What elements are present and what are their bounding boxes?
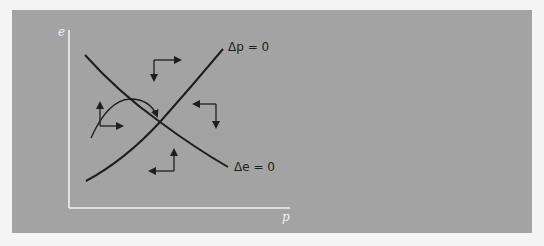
arrow-pair-left — [100, 103, 122, 126]
arrow-pair-bottom — [150, 150, 174, 171]
delta-p-zero-label: Δp = 0 — [228, 40, 269, 54]
axes — [69, 30, 290, 208]
arrow-pair-right — [194, 104, 216, 127]
trajectory-curve — [91, 99, 157, 138]
x-axis-label: p — [282, 210, 290, 224]
y-axis-label: e — [58, 25, 65, 39]
arrow-pair-top — [154, 60, 180, 80]
phase-diagram — [0, 0, 544, 246]
delta-e-zero-label: Δe = 0 — [234, 160, 275, 174]
delta-e-zero-curve — [85, 55, 228, 167]
